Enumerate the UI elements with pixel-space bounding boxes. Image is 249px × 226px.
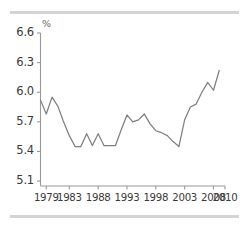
y-tick-label: 5.7 <box>4 114 34 128</box>
y-tick-label: 6.3 <box>4 55 34 69</box>
chart-figure: % 6.66.36.05.75.45.1 1979198319881993199… <box>0 0 249 226</box>
y-tick-label: 6.6 <box>4 25 34 39</box>
axis-group <box>37 33 225 190</box>
x-tick-label: 2010 <box>208 192 242 203</box>
data-series-line <box>41 71 220 147</box>
y-tick-label: 6.0 <box>4 84 34 98</box>
series-group <box>41 71 220 147</box>
y-tick-label: 5.4 <box>4 143 34 157</box>
y-tick-label: 5.1 <box>4 173 34 187</box>
